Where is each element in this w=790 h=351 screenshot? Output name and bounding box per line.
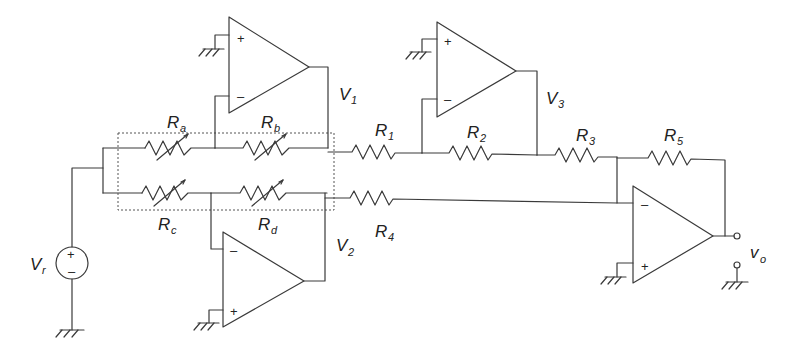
- ground-icon: [722, 282, 748, 289]
- label-v1-sub: 1: [351, 94, 357, 106]
- opamp1-plus: +: [237, 31, 245, 46]
- ground-icon: [406, 52, 431, 59]
- resistor-r2: [422, 146, 537, 160]
- opamp4-minus: –: [641, 197, 649, 212]
- label-r2: R: [467, 123, 479, 142]
- label-r4: R: [375, 222, 387, 241]
- label-rb-sub: b: [274, 122, 280, 134]
- opamp3-plus: +: [444, 34, 452, 49]
- source-minus-sign: –: [68, 264, 76, 279]
- opamp1-minus: –: [237, 89, 245, 104]
- label-r3-sub: 3: [589, 135, 596, 147]
- label-ra-sub: a: [180, 122, 186, 134]
- label-vr-sub: r: [42, 264, 47, 276]
- label-vo: v: [750, 243, 760, 262]
- variable-resistor-rd: [211, 180, 327, 206]
- label-vo-sub: o: [760, 253, 766, 265]
- opamp-output: – +: [617, 186, 734, 283]
- ground-icon: [194, 323, 219, 330]
- ground-icon: [601, 277, 626, 284]
- label-rb: R: [261, 113, 273, 132]
- label-r4-sub: 4: [388, 231, 394, 243]
- label-r2-sub: 2: [479, 132, 486, 144]
- label-r1: R: [375, 121, 387, 140]
- label-rc: R: [158, 215, 170, 234]
- resistor-r4: [325, 191, 617, 205]
- opamp3-minus: –: [444, 92, 452, 107]
- ground-icon: [199, 49, 224, 56]
- variable-resistor-ra: [145, 134, 215, 160]
- label-ra: R: [167, 113, 179, 132]
- label-rd: R: [258, 215, 270, 234]
- circuit-schematic: + – V r R a R b R c: [0, 0, 790, 351]
- output-reference-terminal: [734, 262, 740, 268]
- source-plus-sign: +: [67, 247, 75, 262]
- label-rd-sub: d: [271, 224, 278, 236]
- opamp2-minus: –: [230, 243, 238, 258]
- voltage-source-vr: + –: [56, 168, 103, 330]
- opamp4-plus: +: [641, 259, 649, 274]
- label-r3: R: [576, 126, 588, 145]
- label-rc-sub: c: [171, 224, 177, 236]
- resistor-r3: [537, 148, 617, 162]
- label-v2-sub: 2: [347, 246, 354, 258]
- label-r5-sub: 5: [677, 135, 684, 147]
- variable-resistor-rb: [215, 134, 328, 160]
- opamp2-plus: +: [230, 304, 238, 319]
- resistor-r1: [328, 145, 422, 159]
- output-terminal: [734, 233, 740, 239]
- variable-resistor-rc: [142, 180, 211, 206]
- label-r1-sub: 1: [388, 130, 394, 142]
- label-r5: R: [664, 126, 676, 145]
- opamp-bottom-left: – +: [209, 193, 325, 327]
- label-v3-sub: 3: [558, 98, 565, 110]
- ground-icon: [56, 330, 84, 337]
